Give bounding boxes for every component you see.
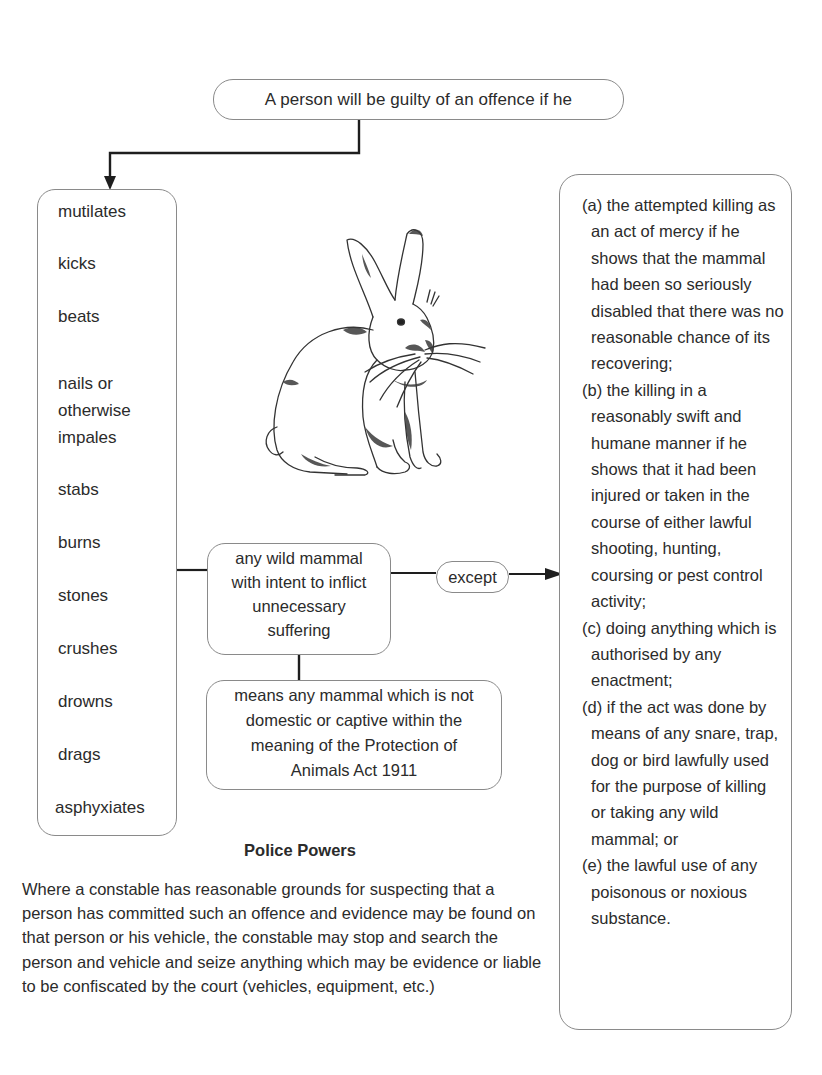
exception-e: (e) the lawful use of any poisonous or n… (582, 852, 785, 931)
action-item: stabs (58, 476, 99, 503)
definition-line: domestic or captive within the (207, 708, 501, 733)
offence-title-text: A person will be guilty of an offence if… (265, 90, 572, 110)
exception-c: (c) doing anything which is authorised b… (582, 615, 785, 694)
actions-list-box: mutilates kicks beats nails or otherwise… (37, 189, 177, 836)
action-item: asphyxiates (55, 794, 145, 821)
definition-line: Animals Act 1911 (207, 758, 501, 783)
wild-mammal-definition-box: means any mammal which is not domestic o… (206, 680, 502, 790)
rabbit-illustration (255, 222, 495, 477)
exception-a: (a) the attempted killing as an act of m… (582, 192, 785, 377)
exceptions-box: (a) the attempted killing as an act of m… (559, 174, 792, 1030)
definition-line: means any mammal which is not (207, 683, 501, 708)
wild-mammal-line: with intent to inflict (208, 570, 390, 594)
action-item: mutilates (58, 198, 126, 225)
action-line: otherwise (58, 397, 131, 424)
except-label-pill: except (436, 561, 509, 593)
exception-d: (d) if the act was done by means of any … (582, 694, 785, 852)
action-item: beats (58, 303, 100, 330)
wild-mammal-line: suffering (208, 618, 390, 642)
action-line: impales (58, 424, 131, 451)
action-line: nails or (58, 370, 131, 397)
action-item: stones (58, 582, 108, 609)
action-item: kicks (58, 250, 96, 277)
arrowhead-down-icon (104, 176, 116, 190)
action-item: drags (58, 741, 101, 768)
wild-mammal-line: any wild mammal (208, 546, 390, 570)
action-item: drowns (58, 688, 113, 715)
wild-mammal-box: any wild mammal with intent to inflict u… (207, 543, 391, 655)
definition-line: meaning of the Protection of (207, 733, 501, 758)
connector-title-to-actions (110, 119, 359, 178)
offence-title-box: A person will be guilty of an offence if… (213, 79, 624, 120)
action-item-nails: nails or otherwise impales (58, 370, 131, 451)
police-powers-text: Where a constable has reasonable grounds… (22, 877, 542, 998)
exception-b: (b) the killing in a reasonably swift an… (582, 377, 785, 615)
police-powers-heading: Police Powers (180, 841, 420, 860)
wild-mammal-line: unnecessary (208, 594, 390, 618)
action-item: crushes (58, 635, 118, 662)
action-item: burns (58, 529, 101, 556)
except-label: except (448, 568, 497, 587)
